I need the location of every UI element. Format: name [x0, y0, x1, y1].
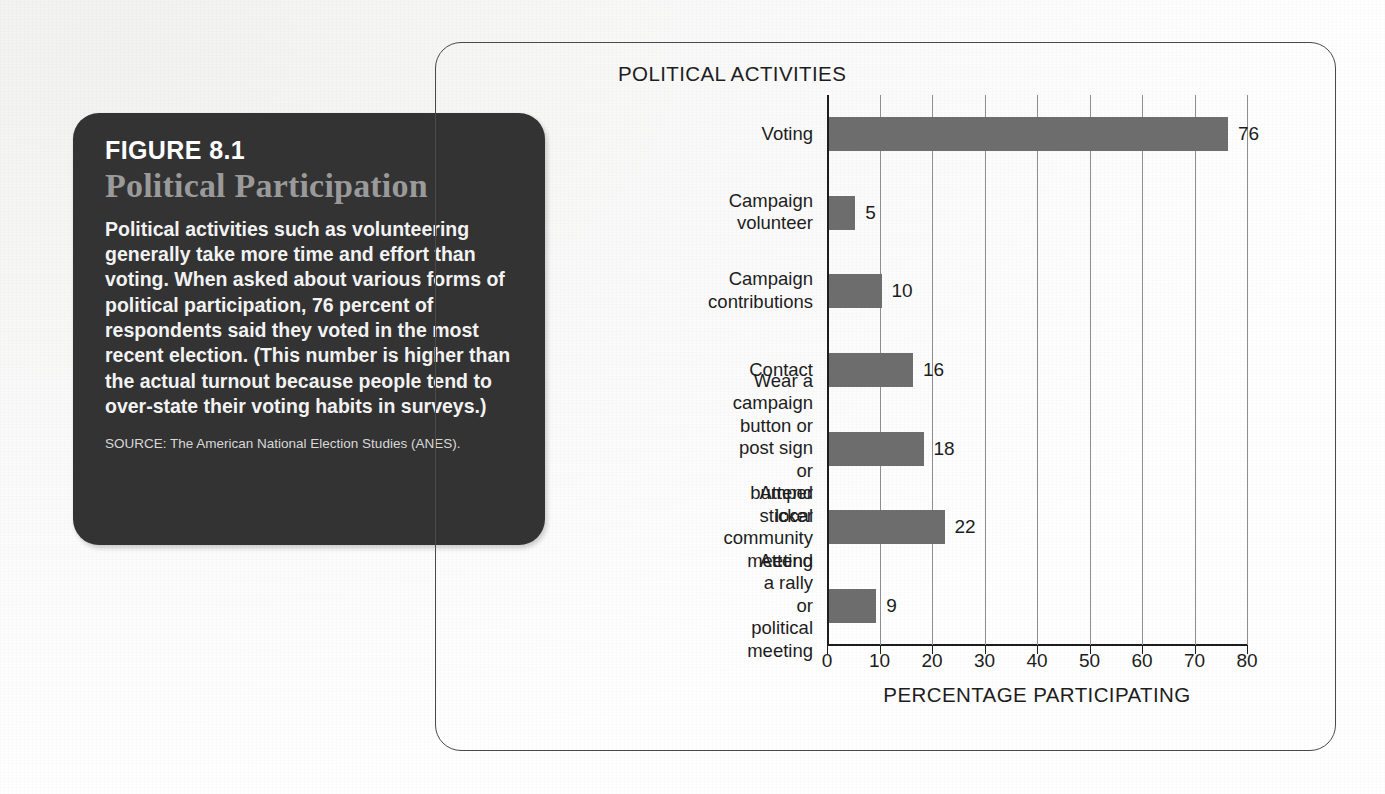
bar — [829, 353, 913, 387]
bar-value-label: 10 — [892, 280, 913, 302]
bar-row: Wear a campaign button or post sign or b… — [827, 409, 1247, 488]
x-tick-label-10: 10 — [869, 650, 890, 672]
x-tick-label-80: 80 — [1236, 650, 1257, 672]
bar-row: Voting76 — [827, 95, 1247, 174]
x-tick-label-40: 40 — [1026, 650, 1047, 672]
bar — [829, 117, 1228, 151]
bar-row: Attend a rally or political meeting9 — [827, 566, 1247, 645]
bar — [829, 510, 945, 544]
x-tick-label-60: 60 — [1131, 650, 1152, 672]
category-label: Attend a rally or political meeting — [747, 549, 813, 662]
category-label: Voting — [762, 123, 813, 146]
bar-value-label: 9 — [886, 595, 897, 617]
bar-value-label: 76 — [1238, 123, 1259, 145]
bar — [829, 432, 924, 466]
bar-value-label: 5 — [865, 202, 876, 224]
chart-title: POLITICAL ACTIVITIES — [618, 62, 846, 86]
category-label: Campaign contributions — [708, 269, 813, 314]
x-tick-label-0: 0 — [822, 650, 833, 672]
x-axis-title: PERCENTAGE PARTICIPATING — [827, 683, 1247, 707]
bar-row: Attend local community meeting22 — [827, 488, 1247, 567]
bar-chart-plot-area: 01020304050607080Voting76Campaign volunt… — [827, 95, 1247, 645]
bar-value-label: 18 — [934, 438, 955, 460]
category-label: Campaign volunteer — [729, 190, 813, 235]
x-tick-label-20: 20 — [921, 650, 942, 672]
bar-value-label: 22 — [955, 516, 976, 538]
x-tick-label-30: 30 — [974, 650, 995, 672]
x-tick-label-50: 50 — [1079, 650, 1100, 672]
bar-row: Campaign contributions10 — [827, 252, 1247, 331]
bar-value-label: 16 — [923, 359, 944, 381]
bar — [829, 589, 876, 623]
x-tick-label-70: 70 — [1184, 650, 1205, 672]
bar — [829, 274, 882, 308]
bar-row: Contact16 — [827, 331, 1247, 410]
bar — [829, 196, 855, 230]
gridline-80 — [1247, 95, 1248, 645]
bar-row: Campaign volunteer5 — [827, 174, 1247, 253]
